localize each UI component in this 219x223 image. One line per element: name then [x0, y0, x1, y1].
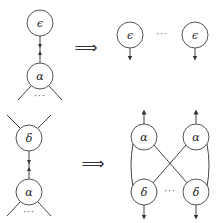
delta-label: δ [141, 186, 148, 199]
interaction-rules-diagram: ϵ α ··· ⟹ ϵ ··· ϵ δ α ··· ⟹ [0, 0, 219, 223]
cross-edge [152, 145, 186, 184]
aux-edge-right [38, 202, 51, 216]
implies-arrow-icon: ⟹ [75, 38, 98, 57]
ellipsis: ··· [156, 29, 168, 39]
alpha-label: α [140, 131, 148, 144]
implies-arrow-icon: ⟹ [82, 154, 105, 173]
epsilon-label: ϵ [192, 29, 198, 42]
alpha-label: α [36, 70, 44, 83]
side-edge-right [207, 144, 209, 187]
delta-label: δ [193, 186, 200, 199]
delta-label: δ [26, 132, 33, 145]
aux-edge-left [7, 202, 20, 216]
arrow-down-icon [27, 160, 31, 164]
rule2-lhs: δ α ··· [7, 115, 51, 217]
aux-edge-right [38, 115, 51, 128]
cross-edge [154, 145, 188, 184]
epsilon-label: ϵ [37, 17, 43, 30]
ellipsis: ··· [34, 91, 46, 101]
epsilon-label: ϵ [127, 29, 133, 42]
arrow-down-icon [38, 44, 42, 48]
alpha-label: α [192, 131, 200, 144]
ellipsis: ··· [23, 207, 35, 217]
rule2-rhs: α α δ δ ··· [131, 112, 209, 217]
aux-edge-right [49, 86, 62, 100]
arrow-up-icon [38, 51, 42, 55]
side-edge-left [131, 144, 133, 187]
rule1-rhs: ϵ ··· ϵ [117, 22, 208, 58]
rule1-lhs: ϵ α ··· [18, 10, 62, 101]
arrow-up-icon [27, 167, 31, 171]
ellipsis: ··· [164, 186, 176, 196]
aux-edge-left [7, 115, 20, 128]
alpha-label: α [25, 186, 33, 199]
aux-edge-left [18, 86, 31, 100]
